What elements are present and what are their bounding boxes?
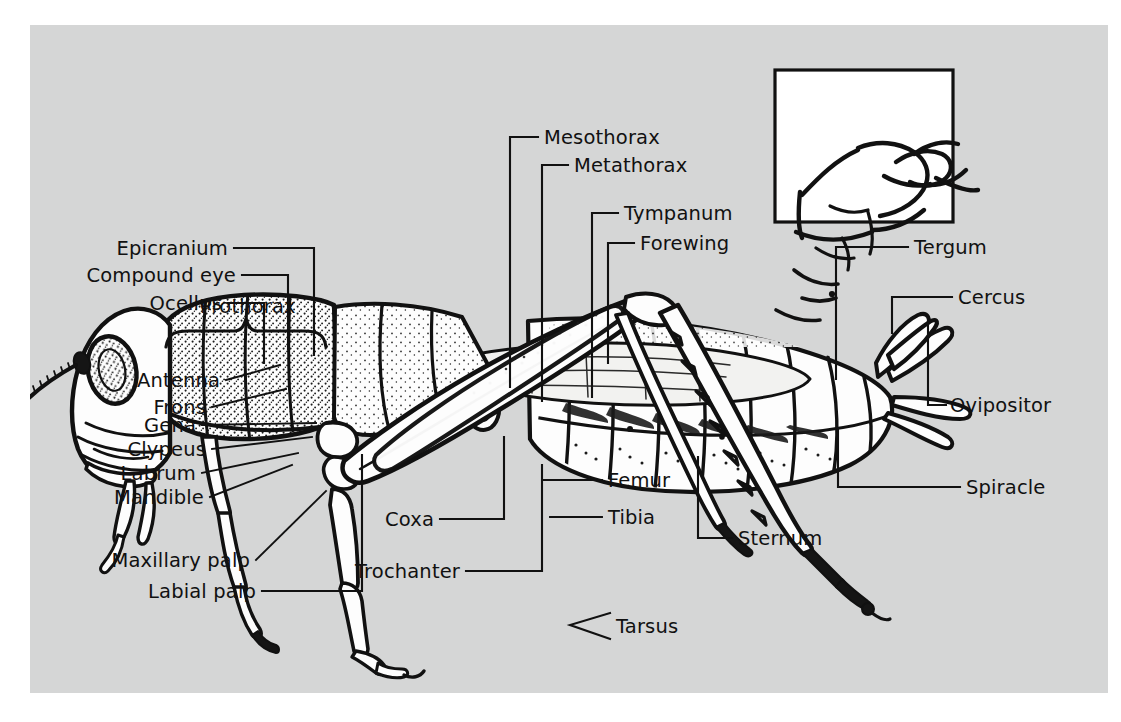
label-spiracle: Spiracle — [966, 476, 1045, 499]
femur-midleg-shape — [330, 489, 358, 591]
label-sternum: Sternum — [738, 527, 822, 550]
tarsus-bracket — [570, 613, 610, 639]
label-tarsus: Tarsus — [615, 615, 678, 638]
label-cercus: Cercus — [958, 286, 1025, 309]
label-coxa: Coxa — [385, 508, 434, 531]
label-labial-palp: Labial palp — [148, 580, 256, 603]
label-tibia: Tibia — [607, 506, 655, 529]
antenna-shape — [30, 363, 76, 411]
label-forewing: Forewing — [640, 232, 729, 255]
inset-abdomen-tip-detail — [775, 70, 978, 321]
figure-panel: Epicranium Compound eye Ocellus Antenna … — [30, 25, 1108, 693]
label-metathorax: Metathorax — [574, 154, 687, 177]
label-tympanum: Tympanum — [623, 202, 733, 225]
label-maxillary-palp: Maxillary palp — [112, 549, 251, 572]
hind-tarsus-shape — [802, 549, 890, 620]
label-antenna: Antenna — [137, 369, 220, 392]
label-mesothorax: Mesothorax — [544, 126, 660, 149]
label-ovipositor: Ovipositor — [950, 394, 1052, 417]
label-mandible: Mandible — [114, 486, 204, 509]
label-femur: Femur — [608, 469, 671, 492]
label-epicranium: Epicranium — [117, 237, 228, 260]
grasshopper-anatomy-diagram: Epicranium Compound eye Ocellus Antenna … — [30, 25, 1108, 693]
label-labrum: Labrum — [121, 462, 196, 485]
label-prothorax: Prothorax — [200, 295, 296, 318]
spiracle-marker — [627, 426, 633, 432]
figure-page: Epicranium Compound eye Ocellus Antenna … — [0, 0, 1121, 722]
label-clypeus: Clypeus — [127, 438, 206, 461]
label-compound-eye: Compound eye — [87, 264, 236, 287]
label-trochanter: Trochanter — [354, 560, 461, 583]
label-gena: Gena — [144, 414, 196, 437]
label-tergum: Tergum — [913, 236, 987, 259]
foreleg — [202, 437, 279, 653]
